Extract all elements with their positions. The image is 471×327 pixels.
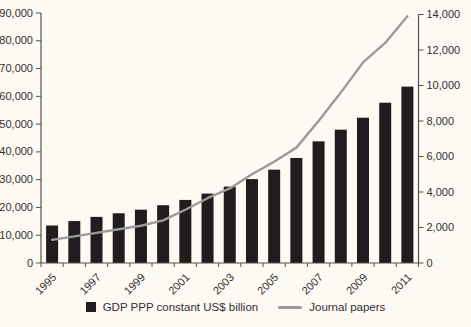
bar-2008 [335,130,347,263]
left-axis-label: 60,000 [0,90,33,102]
bar-1998 [113,213,125,263]
legend-item-papers: Journal papers [278,301,385,313]
bar-2007 [313,141,325,263]
x-axis-label-2001: 2001 [166,271,192,297]
left-axis-label: 50,000 [0,118,33,130]
left-axis-label: 0 [27,257,33,269]
bar-2003 [224,187,236,263]
legend-label-papers: Journal papers [309,301,385,313]
x-axis-label-1997: 1997 [77,271,103,297]
bar-2004 [246,179,258,263]
legend: GDP PPP constant US$ billion Journal pap… [0,301,471,313]
bar-2010 [379,103,391,263]
line-swatch-icon [278,306,302,309]
x-axis-label-2005: 2005 [255,271,281,297]
bar-2005 [268,170,280,263]
right-axis-label: 0 [427,257,433,269]
left-axis-label: 10,000 [0,229,33,241]
right-axis-label: 6,000 [427,150,455,162]
x-axis-label-1999: 1999 [122,271,148,297]
x-axis-label-2011: 2011 [389,271,414,296]
bar-2006 [290,158,302,263]
right-axis-label: 8,000 [427,115,455,127]
right-axis-label: 10,000 [427,79,461,91]
bar-2009 [357,118,369,263]
legend-label-gdp: GDP PPP constant US$ billion [103,301,259,313]
bar-swatch-icon [86,302,96,312]
legend-item-gdp: GDP PPP constant US$ billion [86,301,259,313]
x-axis-label-2007: 2007 [299,271,325,297]
bar-2011 [401,87,413,263]
right-axis-label: 4,000 [427,186,455,198]
x-axis-label-1995: 1995 [33,271,59,297]
x-axis-label-2009: 2009 [344,271,370,297]
left-axis-label: 40,000 [0,145,33,157]
left-axis-label: 80,000 [0,34,33,46]
right-axis-label: 2,000 [427,221,455,233]
x-axis-label-2003: 2003 [210,271,236,297]
bar-1999 [135,210,147,263]
bar-1997 [91,217,103,263]
chart-canvas: 010,00020,00030,00040,00050,00060,00070,… [0,0,471,327]
right-axis-label: 14,000 [427,8,461,20]
right-axis-label: 12,000 [427,44,461,56]
bar-1995 [46,226,58,264]
left-axis-label: 20,000 [0,201,33,213]
left-axis-label: 70,000 [0,62,33,74]
bar-2002 [202,194,214,263]
chart-page: 010,00020,00030,00040,00050,00060,00070,… [0,0,471,327]
left-axis-label: 90,000 [0,7,33,19]
bar-2000 [157,205,169,263]
left-axis-label: 30,000 [0,173,33,185]
bar-1996 [68,221,80,263]
